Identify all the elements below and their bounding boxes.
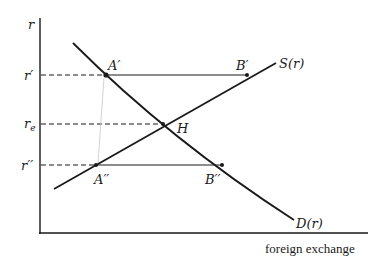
point-b-prime xyxy=(245,73,249,77)
demand-curve-label: D(r) xyxy=(295,216,323,231)
label-a-double-prime: A′′ xyxy=(93,172,109,187)
faint-vertical-a xyxy=(98,78,104,163)
label-h: H xyxy=(176,121,189,136)
label-b-double-prime: B′′ xyxy=(204,172,221,187)
level-label-r-e: re xyxy=(24,116,36,133)
label-b-prime: B′ xyxy=(235,58,249,73)
x-axis-label: foreign exchange xyxy=(265,241,355,256)
r-e-subscript: e xyxy=(30,123,35,133)
foreign-exchange-diagram: r foreign exchange r′ re r′′ A′ B′ H A′′… xyxy=(0,0,390,270)
supply-curve-label: S(r) xyxy=(279,56,304,71)
level-label-r-double-prime: r′′ xyxy=(21,158,33,173)
label-a-prime: A′ xyxy=(107,58,120,73)
supply-curve xyxy=(54,63,276,189)
point-a-double-prime xyxy=(94,163,98,167)
point-a-prime xyxy=(103,72,108,77)
level-label-r-prime: r′ xyxy=(24,68,33,83)
point-b-double-prime xyxy=(220,163,224,167)
point-h xyxy=(161,122,165,126)
y-axis-label: r xyxy=(28,17,35,32)
